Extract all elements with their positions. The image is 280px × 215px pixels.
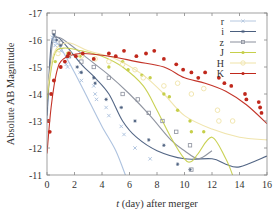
data-marker	[175, 81, 180, 86]
data-marker	[162, 57, 166, 61]
x-tick-label: 14	[235, 179, 245, 190]
x-tick-label: 12	[207, 179, 217, 190]
data-marker	[196, 76, 200, 80]
data-marker	[107, 59, 112, 64]
data-marker	[107, 52, 111, 56]
x-tick-label: 6	[127, 179, 132, 190]
data-marker	[104, 98, 107, 101]
data-marker	[107, 65, 110, 68]
data-marker	[95, 98, 98, 101]
data-marker	[56, 51, 61, 56]
x-tick-label: 16	[262, 179, 272, 190]
legend-label-i: i	[221, 26, 224, 37]
data-marker	[54, 44, 57, 47]
data-marker	[104, 106, 107, 109]
model-curve-z	[47, 36, 212, 159]
data-marker	[107, 114, 110, 117]
y-tick-label: -16	[29, 35, 42, 46]
legend-label-r: r	[221, 16, 225, 27]
data-marker	[229, 84, 233, 88]
data-marker	[188, 119, 191, 122]
data-marker	[258, 106, 262, 110]
data-marker	[189, 92, 194, 97]
data-marker	[148, 157, 151, 160]
data-marker	[67, 52, 71, 56]
data-marker	[176, 163, 179, 166]
y-tick-label: -15	[29, 62, 42, 73]
x-tick-label: 0	[45, 179, 50, 190]
y-tick-label: -14	[29, 89, 42, 100]
x-axis-ticks: 0246810121416	[45, 13, 273, 190]
data-marker	[54, 60, 57, 63]
data-marker	[81, 52, 85, 56]
data-marker	[201, 86, 206, 91]
data-marker	[80, 71, 83, 74]
data-marker	[176, 109, 179, 112]
y-tick-label: -12	[29, 143, 42, 154]
x-axis-label: t (day) after merger	[116, 198, 198, 210]
data-marker	[241, 30, 244, 33]
legend-label-K: K	[217, 68, 225, 79]
legend-label-J: J	[220, 47, 224, 58]
data-marker	[114, 54, 118, 58]
data-marker	[162, 144, 165, 147]
data-marker	[80, 79, 83, 82]
data-marker	[122, 133, 125, 136]
data-marker	[168, 95, 171, 98]
x-tick-label: 10	[180, 179, 190, 190]
data-marker	[93, 92, 96, 95]
chart: 0246810121416 -17-16-15-14-13-12-11 t (d…	[0, 0, 280, 215]
data-marker	[63, 60, 67, 64]
data-marker	[189, 71, 193, 75]
data-marker	[260, 111, 264, 115]
y-tick-label: -13	[29, 116, 42, 127]
data-marker	[52, 79, 56, 83]
data-marker	[144, 52, 148, 56]
data-marker	[243, 92, 247, 96]
data-marker	[217, 119, 222, 124]
data-marker	[162, 84, 167, 89]
x-tick-label: 2	[72, 179, 77, 190]
legend-label-z: z	[220, 37, 225, 48]
y-axis-label: Absolute AB Magnitude	[5, 42, 16, 145]
data-marker	[48, 130, 52, 134]
data-marker	[257, 100, 261, 104]
data-marker	[241, 51, 244, 54]
data-marker	[120, 106, 123, 109]
legend: rizJHK	[217, 16, 256, 80]
data-marker	[203, 71, 207, 75]
data-marker	[76, 65, 79, 68]
data-marker	[92, 57, 96, 61]
data-marker	[188, 144, 191, 147]
data-marker	[126, 68, 129, 71]
data-marker	[147, 138, 150, 141]
data-marker	[148, 76, 151, 79]
data-marker	[152, 49, 156, 53]
x-tick-label: 4	[100, 179, 105, 190]
data-marker	[92, 65, 95, 68]
data-marker	[133, 146, 136, 149]
data-marker	[134, 54, 138, 58]
data-marker	[121, 92, 124, 95]
data-marker	[74, 54, 78, 58]
legend-label-H: H	[217, 58, 224, 69]
data-marker	[133, 119, 136, 122]
data-marker	[190, 130, 193, 133]
data-marker	[93, 82, 96, 85]
x-tick-label: 8	[155, 179, 160, 190]
y-tick-label: -11	[29, 170, 42, 181]
data-marker	[141, 76, 146, 81]
data-marker	[244, 98, 248, 102]
data-marker	[162, 92, 165, 95]
data-marker	[174, 62, 178, 66]
data-marker	[175, 130, 178, 133]
data-marker	[222, 81, 226, 85]
data-marker	[181, 68, 185, 72]
y-tick-label: -17	[29, 8, 42, 19]
data-marker	[202, 130, 205, 133]
data-marker	[120, 125, 123, 128]
data-marker	[59, 65, 63, 69]
data-marker	[122, 49, 126, 53]
model-curve-K	[47, 53, 267, 153]
data-marker	[241, 72, 244, 75]
